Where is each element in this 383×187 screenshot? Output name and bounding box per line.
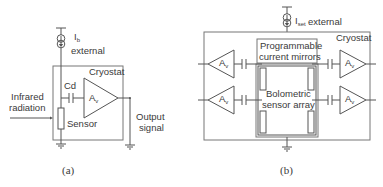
current-mirrors-line1: Programmable [260,40,322,51]
capacitor-label: Cd [64,80,76,91]
caption-a: (a) [62,164,75,177]
caption-b: (b) [280,164,293,177]
bias-current-symbol: Ib [74,31,81,43]
sensor-label: Sensor [67,118,97,129]
panel-b: Iset external Cryostat Programmable curr… [198,7,376,177]
sensor-array-line2: sensor array [262,99,315,110]
current-source-icon [57,35,65,48]
ground-icon [56,144,66,148]
output-label-line1: Output [136,111,165,122]
sensor-array-line1: Bolometric [266,88,311,99]
diagram-canvas: Ib external Cryostat Sensor Cd Av [0,0,383,187]
panel-a: Ib external Cryostat Sensor Cd Av [9,28,165,177]
output-label-line2: signal [139,122,164,133]
input-label-line2: radiation [9,102,45,113]
bias-current-label: external [71,45,105,56]
ground-icon [282,147,292,151]
current-mirrors-line2: current mirrors [259,51,321,62]
cryostat-label: Cryostat [336,32,372,43]
ground-icon [125,145,135,149]
input-label-line1: Infrared [11,91,44,102]
current-source-icon [283,14,291,27]
set-current-symbol: Iset [295,15,306,27]
set-current-label: external [308,16,342,27]
cryostat-label: Cryostat [89,66,125,77]
